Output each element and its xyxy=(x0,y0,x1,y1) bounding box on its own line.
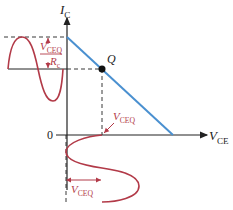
q-point xyxy=(99,66,106,73)
load-line-diagram xyxy=(0,0,233,210)
origin-label: 0 xyxy=(47,129,53,141)
vceq-pointer-label: VCEQ xyxy=(113,111,135,125)
y-axis-label: IC xyxy=(60,3,70,20)
vce-swing-label: VCEQ xyxy=(71,184,93,198)
ic-swing-denominator: Rc xyxy=(50,56,60,70)
ic-swing-numerator: VCEQ xyxy=(40,41,62,55)
q-point-label: Q xyxy=(107,53,116,65)
x-axis-label: VCE xyxy=(209,129,229,146)
